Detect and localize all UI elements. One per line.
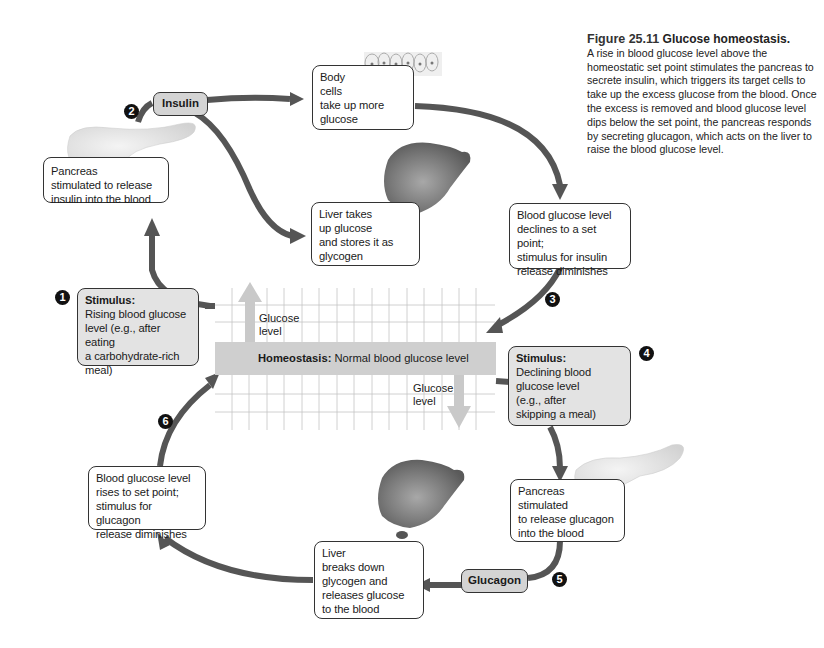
glucose-declines-box: Blood glucose level declines to a set po… xyxy=(509,203,631,269)
stimulus-declining-line: glucose level xyxy=(516,379,623,393)
liver-breaks-line: breaks down xyxy=(322,560,416,574)
stimulus-rising-title: Stimulus: xyxy=(85,294,135,306)
glucose-declines-line: release diminishes xyxy=(517,264,623,278)
glucose-up-label-line1: Glucose xyxy=(259,312,299,325)
body-cells-line: glucose xyxy=(320,112,406,126)
stimulus-declining-line: (e.g., after xyxy=(516,393,623,407)
glucose-rises-line: stimulus for glucagon xyxy=(96,499,198,527)
glucose-declines-line: declines to a set point; xyxy=(517,222,623,250)
insulin-tag: Insulin xyxy=(153,92,208,116)
figure-title: Glucose homeostasis. xyxy=(663,32,790,46)
arrow-liver-to-rises xyxy=(165,538,313,580)
step-number-3: 3 xyxy=(545,292,560,307)
caption-body: A rise in blood glucose level above the … xyxy=(587,47,821,157)
liver-breaks-line: Liver xyxy=(322,546,416,560)
glucose-down-label: Glucose level xyxy=(413,382,453,408)
liver-takes-line: glycogen xyxy=(319,249,412,263)
liver-breaks-box: Liver breaks down glycogen and releases … xyxy=(314,541,424,619)
arrowhead-body-cells xyxy=(290,92,304,106)
step-number-1: 1 xyxy=(55,290,70,305)
liver-takes-box: Liver takes up glucose and stores it as … xyxy=(311,202,420,266)
arrow-insulin-to-body-cells xyxy=(207,98,290,100)
pancreas-glucagon-line: into the blood xyxy=(518,526,617,540)
liver-takes-line: up glucose xyxy=(319,221,412,235)
stimulus-declining-title: Stimulus: xyxy=(516,352,566,364)
figure-number: Figure 25.11 xyxy=(587,32,659,46)
arrow-insulin-to-liver xyxy=(195,113,292,236)
arrowhead-pancreas-box xyxy=(144,218,160,236)
pancreas-glucagon-line: stimulated xyxy=(518,498,617,512)
liver-breaks-line: to the blood xyxy=(322,602,416,616)
arrowhead-homeostasis-right xyxy=(486,317,503,333)
pancreas-insulin-line: Pancreas xyxy=(51,164,161,178)
caption-title-line: Figure 25.11 Glucose homeostasis. xyxy=(587,33,821,47)
liver-breaks-line: glycogen and xyxy=(322,574,416,588)
body-cells-line: take up more xyxy=(320,98,406,112)
step-number-6: 6 xyxy=(158,414,173,429)
step-number-2: 2 xyxy=(124,104,139,119)
liver-takes-line: and stores it as xyxy=(319,235,412,249)
step-number-4: 4 xyxy=(639,346,654,361)
stimulus-rising-line: meal) xyxy=(85,363,191,377)
stimulus-rising-box: Stimulus: Rising blood glucose level (e.… xyxy=(77,288,199,366)
glucagon-tag: Glucagon xyxy=(461,569,528,593)
arrowhead-declines xyxy=(552,184,568,200)
stimulus-declining-line: Declining blood xyxy=(516,365,623,379)
stimulus-rising-line: Rising blood glucose xyxy=(85,307,191,321)
body-cells-line: cells xyxy=(320,84,406,98)
glucose-rises-line: release diminishes xyxy=(96,527,198,541)
glucose-declines-line: stimulus for insulin xyxy=(517,250,623,264)
glucose-up-label: Glucose level xyxy=(259,312,299,338)
body-cells-line: Body xyxy=(320,70,406,84)
pancreas-glucagon-line: to release glucagon xyxy=(518,512,617,526)
glucose-down-label-line2: level xyxy=(413,395,453,408)
arrow-pancreas-to-insulin xyxy=(138,103,152,122)
pancreas-glucagon-line: Pancreas xyxy=(518,484,617,498)
stimulus-rising-line: a carbohydrate-rich xyxy=(85,349,191,363)
stimulus-declining-line: skipping a meal) xyxy=(516,407,623,421)
stimulus-declining-box: Stimulus: Declining blood glucose level … xyxy=(508,346,631,426)
pancreas-insulin-line: insulin into the blood xyxy=(51,192,161,206)
pancreas-glucagon-box: Pancreas stimulated to release glucagon … xyxy=(510,479,625,542)
figure-caption: Figure 25.11 Glucose homeostasis. A rise… xyxy=(587,33,821,157)
liver-takes-line: Liver takes xyxy=(319,207,412,221)
stimulus-rising-line: level (e.g., after eating xyxy=(85,321,191,349)
arrow-stimulus-decline-to-pancreas xyxy=(550,427,560,468)
glucose-rises-box: Blood glucose level rises to set point; … xyxy=(88,466,206,530)
homeostasis-bar: Homeostasis: Normal blood glucose level xyxy=(215,342,496,375)
pancreas-insulin-line: stimulated to release xyxy=(51,178,161,192)
liver-illustration-bottom xyxy=(378,460,464,528)
homeostasis-label-text: Normal blood glucose level xyxy=(331,352,468,364)
homeostasis-label-bold: Homeostasis: xyxy=(258,352,331,364)
glucose-down-label-line1: Glucose xyxy=(413,382,453,395)
body-cells-box: Body cells take up more glucose xyxy=(312,65,414,130)
arrowhead-liver xyxy=(290,228,306,244)
pancreas-insulin-box: Pancreas stimulated to release insulin i… xyxy=(43,157,169,203)
glucose-rises-line: Blood glucose level xyxy=(96,471,198,485)
step-number-5: 5 xyxy=(552,572,567,587)
glucose-up-label-line2: level xyxy=(259,325,299,338)
glucose-rises-line: rises to set point; xyxy=(96,485,198,499)
glucose-declines-line: Blood glucose level xyxy=(517,208,623,222)
liver-breaks-line: releases glucose xyxy=(322,588,416,602)
